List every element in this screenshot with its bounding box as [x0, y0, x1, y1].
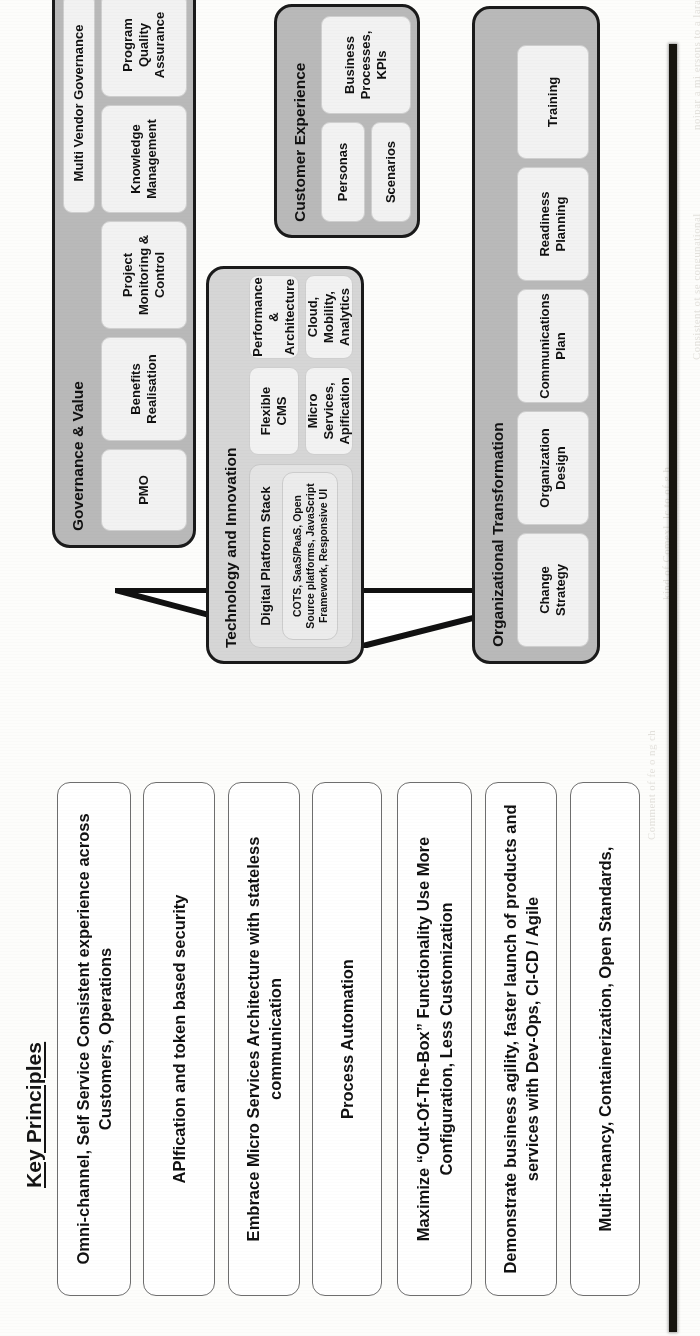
sub-item-flexible-cms: Flexible CMS	[249, 367, 299, 455]
sub-item-communications-plan: Communications Plan	[517, 289, 589, 403]
scanned-page: nojpar a mi ersons to a laran c Consiste…	[0, 0, 700, 1336]
panel-technology-and-innovation: Technology and Innovation Digital Platfo…	[206, 266, 364, 664]
key-principle-5: Maximize “Out-Of-The-Box” Functionality …	[397, 782, 472, 1296]
panel-organizational-transformation: Organizational Transformation Change Str…	[472, 6, 600, 664]
panel-customer-experience: Customer Experience Personas Scenarios B…	[274, 4, 420, 238]
sub-item-digital-platform-stack-container: Digital Platform Stack COTS, SaaS/PaaS, …	[249, 464, 353, 648]
panel-title-governance-and-value: Governance & Value	[69, 381, 87, 531]
sub-item-knowledge-management: Knowledge Management	[101, 105, 187, 213]
panel-governance-and-value: Governance & Value PMO Benefits Realisat…	[52, 0, 196, 548]
sub-item-scenarios: Scenarios	[371, 122, 411, 222]
sub-item-change-strategy: Change Strategy	[517, 533, 589, 647]
sub-item-cloud-mobility-analytics: Cloud, Mobility, Analytics	[305, 275, 353, 359]
key-principle-7: Multi-tenancy, Containerization, Open St…	[570, 782, 640, 1296]
sub-item-platform-stack-detail: COTS, SaaS/PaaS, Open Source platforms, …	[282, 472, 338, 640]
key-principle-1: Omni-channel, Self Service Consistent ex…	[57, 782, 131, 1296]
sub-item-training: Training	[517, 45, 589, 159]
sub-item-benefits-realisation: Benefits Realisation	[101, 337, 187, 441]
panel-title-customer-experience: Customer Experience	[291, 63, 309, 222]
diagram-canvas: Key Principles Omni-channel, Self Servic…	[0, 0, 700, 1336]
sub-item-readiness-planning: Readiness Planning	[517, 167, 589, 281]
sub-item-program-quality-assurance: Program Quality Assurance	[101, 0, 187, 97]
key-principle-6: Demonstrate business agility, faster lau…	[485, 782, 557, 1296]
sub-item-project-monitoring-control: Project Monitoring & Control	[101, 221, 187, 329]
key-principle-4: Process Automation	[312, 782, 382, 1296]
sub-item-organization-design: Organization Design	[517, 411, 589, 525]
key-principle-2: APIfication and token based security	[143, 782, 215, 1296]
sub-item-performance-architecture: Performance & Architecture	[249, 275, 299, 359]
key-principles-title: Key Principles	[22, 1042, 46, 1188]
sub-item-business-processes-kpis: Business Processes, KPIs	[321, 16, 411, 114]
sub-item-multi-vendor-governance: Multi Vendor Governance	[63, 0, 95, 213]
sub-item-personas: Personas	[321, 122, 365, 222]
sub-item-micro-services-apification: Micro Services, Apification	[305, 367, 353, 455]
sub-item-digital-platform-stack-label: Digital Platform Stack	[258, 486, 274, 626]
key-principle-3: Embrace Micro Services Architecture with…	[228, 782, 300, 1296]
panel-title-organizational-transformation: Organizational Transformation	[489, 422, 507, 647]
sub-item-pmo: PMO	[101, 449, 187, 531]
panel-title-technology-and-innovation: Technology and Innovation	[222, 448, 240, 648]
